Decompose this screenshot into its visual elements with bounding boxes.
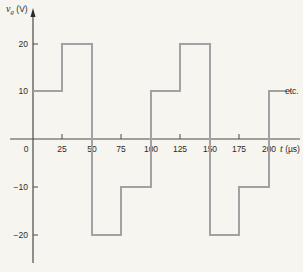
y-axis-label: vg (V) [6,3,28,16]
x-ticks: 0 25 50 75 100 125 150 175 200 [24,134,277,154]
x-tick-label: 25 [57,144,67,154]
x-tick-label: 125 [173,144,187,154]
square-wave-chart: vg (V) 20 10 −10 −20 0 25 50 75 100 125 … [0,0,303,272]
y-tick-label: −20 [14,230,29,240]
y-tick-label: 10 [19,86,29,96]
etc-annotation: etc. [285,86,299,96]
y-tick-label: 20 [19,39,29,49]
y-axis-arrow-icon [31,8,36,17]
x-tick-label: 175 [232,144,246,154]
y-tick-label: −10 [14,182,29,192]
x-tick-label: 75 [116,144,126,154]
x-axis-label: t (µs) [280,143,300,154]
x-tick-label: 0 [24,144,29,154]
